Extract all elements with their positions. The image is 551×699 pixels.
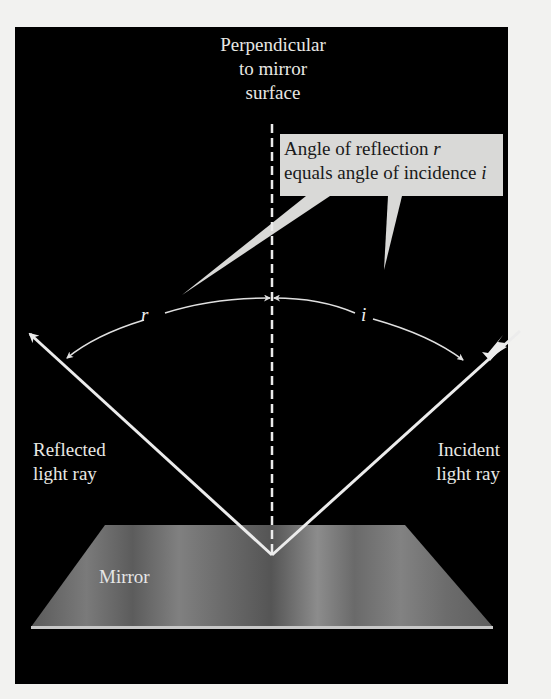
angle-r-label: r [141,305,148,325]
perpendicular-label: Perpendicular to mirror surface [198,33,348,105]
angle-i-arc-lower [373,319,463,360]
callout-var-i: i [481,162,486,183]
incident-ray-label: Incident light ray [400,438,500,486]
callout-text: Angle of reflection r equals angle of in… [284,137,487,185]
reflected-ray-label: Reflected light ray [33,438,106,486]
callout-pointer-r [182,196,330,295]
mirror-edge [31,626,493,629]
callout-line2: equals angle of incidence [284,162,481,183]
callout-line1: Angle of reflection [284,138,433,159]
angle-i-label: i [361,305,366,325]
callout-pointer-i [384,196,402,270]
mirror-label: Mirror [99,565,150,589]
angle-r-arc-lower [67,320,144,358]
angle-i-arc-upper [274,298,355,313]
angle-r-arc-upper [165,298,270,313]
callout-var-r: r [433,138,440,159]
